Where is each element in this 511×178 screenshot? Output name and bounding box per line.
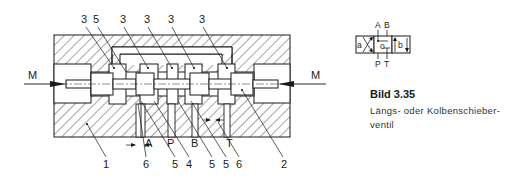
figure-number: Bild 3.35 bbox=[370, 88, 510, 100]
figure-caption: Bild 3.35 Längs- oder Kolbenschieber- ve… bbox=[370, 88, 510, 132]
callout-5a: 5 bbox=[93, 13, 99, 25]
force-label-left: M bbox=[28, 69, 37, 81]
callout-3b: 3 bbox=[120, 13, 126, 25]
port-label-b: B bbox=[191, 137, 198, 149]
hydraulic-symbol: a o b A B P T bbox=[356, 20, 410, 69]
port-label-p: P bbox=[167, 137, 174, 149]
callout-5b: 5 bbox=[172, 158, 178, 170]
callout-6a: 6 bbox=[143, 158, 149, 170]
callout-3e: 3 bbox=[199, 13, 205, 25]
caption-line-1: Längs- oder Kolbenschieber- bbox=[370, 104, 510, 118]
caption-line-2: ventil bbox=[370, 118, 510, 132]
callout-3c: 3 bbox=[144, 13, 150, 25]
callout-3a: 3 bbox=[81, 13, 87, 25]
callout-1: 1 bbox=[103, 158, 109, 170]
symbol-position-o: o bbox=[380, 41, 385, 51]
symbol-port-p: P bbox=[375, 59, 381, 69]
symbol-port-b: B bbox=[384, 20, 390, 30]
port-label-t: T bbox=[226, 137, 233, 149]
symbol-position-a: a bbox=[357, 40, 362, 50]
force-label-right: M bbox=[311, 69, 320, 81]
callout-2: 2 bbox=[281, 158, 287, 170]
symbol-position-b: b bbox=[398, 40, 403, 50]
symbol-port-a: A bbox=[375, 20, 381, 30]
callout-5d: 5 bbox=[223, 158, 229, 170]
callout-6b: 6 bbox=[236, 158, 242, 170]
symbol-port-t: T bbox=[384, 59, 389, 69]
callout-4: 4 bbox=[186, 158, 192, 170]
callout-3d: 3 bbox=[168, 13, 174, 25]
callout-5c: 5 bbox=[209, 158, 215, 170]
